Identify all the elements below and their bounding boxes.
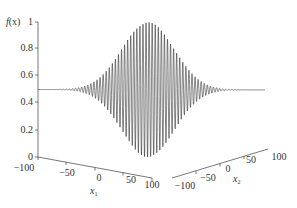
z-tick-1: 1 bbox=[28, 16, 33, 27]
x1-tick-0: 0 bbox=[97, 172, 102, 183]
z-tick-06: 0.6 bbox=[21, 69, 34, 80]
x1-tick-50: 50 bbox=[126, 174, 136, 185]
z-tick-08: 0.8 bbox=[21, 42, 34, 53]
z-tick-04: 0.4 bbox=[21, 96, 34, 107]
chart: 1 0.8 0.6 0.4 0.2 0 f(x) −100 −50 0 50 1… bbox=[0, 0, 297, 208]
x2-tick-0: 0 bbox=[226, 163, 231, 174]
x2-tick-m100: −100 bbox=[175, 180, 196, 191]
x2-tick-100: 100 bbox=[272, 151, 287, 162]
function-curve bbox=[38, 22, 265, 157]
x1-tick-m100: −100 bbox=[14, 162, 35, 173]
x2-tick-50: 50 bbox=[246, 154, 256, 165]
x2-axis-title: x2 bbox=[232, 173, 240, 185]
z-tick-02: 0.2 bbox=[21, 124, 34, 135]
z-ticks bbox=[35, 22, 38, 157]
x1-tick-m50: −50 bbox=[59, 167, 75, 178]
x2-tick-m50: −50 bbox=[200, 172, 216, 183]
x1-tick-100: 100 bbox=[145, 179, 160, 190]
z-tick-0: 0 bbox=[28, 151, 33, 162]
y-axis-title: f(x) bbox=[6, 16, 20, 28]
x1-axis-title: x1 bbox=[89, 185, 97, 197]
